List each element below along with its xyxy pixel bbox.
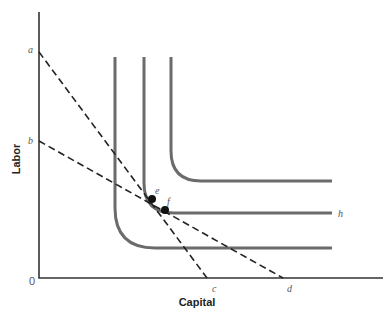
label-h: h xyxy=(338,208,343,219)
y-axis-title: Labor xyxy=(10,143,22,174)
point-f xyxy=(161,206,169,214)
label-d: d xyxy=(287,283,293,294)
label-c: c xyxy=(212,283,217,294)
label-a: a xyxy=(28,44,33,55)
isoquant-diagram: a b c d e f h 0 Capital Labor xyxy=(0,0,383,319)
point-e xyxy=(148,195,156,203)
isoquant-inner xyxy=(115,57,332,248)
label-e: e xyxy=(155,185,160,196)
isoquant-outer xyxy=(171,57,332,181)
label-b: b xyxy=(28,135,33,146)
axes xyxy=(39,12,383,278)
isocost-line-b-d xyxy=(39,141,283,278)
x-axis-title: Capital xyxy=(179,296,216,308)
origin-label: 0 xyxy=(29,275,35,287)
label-f: f xyxy=(167,196,171,207)
isocost-line-a-c xyxy=(39,52,207,278)
